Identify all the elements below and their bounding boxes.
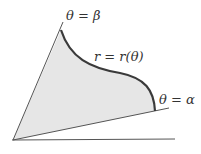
polar-axis: [12, 139, 175, 140]
label-theta-beta: θ = β: [66, 8, 101, 23]
polar-region-diagram: θ = β r = r(θ) θ = α: [0, 0, 201, 154]
label-curve: r = r(θ): [94, 49, 144, 64]
shaded-region: [13, 30, 155, 140]
label-theta-alpha: θ = α: [159, 92, 195, 107]
